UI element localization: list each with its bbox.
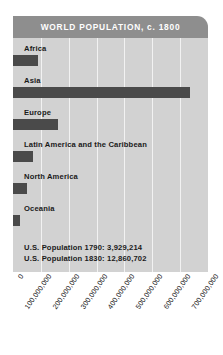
bar-category-label: Latin America and the Caribbean (24, 140, 147, 149)
plot-area: AfricaAsiaEuropeLatin America and the Ca… (13, 38, 208, 272)
bar (13, 119, 58, 130)
bar (13, 87, 190, 98)
x-tick-label: 400,000,000 (106, 272, 137, 311)
chart-annotations: U.S. Population 1790: 3,929,214U.S. Popu… (24, 242, 147, 264)
chart-title: WORLD POPULATION, c. 1800 (13, 22, 208, 32)
bar-category-label: North America (24, 172, 78, 181)
chart-header: WORLD POPULATION, c. 1800 (13, 16, 208, 38)
annotation-line: U.S. Population 1830: 12,860,702 (24, 253, 147, 264)
world-population-chart: WORLD POPULATION, c. 1800 AfricaAsiaEuro… (13, 16, 208, 272)
bar (13, 151, 33, 162)
bar-rows: AfricaAsiaEuropeLatin America and the Ca… (13, 38, 208, 272)
x-axis-tick-labels: 0100,000,000200,000,000300,000,000400,00… (13, 272, 208, 352)
x-tick-label: 200,000,000 (50, 272, 81, 311)
x-tick-label: 0 (16, 272, 26, 281)
chart-row: Asia (13, 76, 208, 108)
x-tick-label: 100,000,000 (22, 272, 53, 311)
chart-row: Latin America and the Caribbean (13, 140, 208, 172)
x-tick-label: 500,000,000 (134, 272, 165, 311)
bar (13, 215, 20, 226)
bar-category-label: Oceania (24, 204, 55, 213)
annotation-line: U.S. Population 1790: 3,929,214 (24, 242, 147, 253)
x-tick-label: 700,000,000 (189, 272, 220, 311)
bar (13, 183, 27, 194)
chart-row: Europe (13, 108, 208, 140)
bar (13, 55, 38, 66)
bar-category-label: Africa (24, 44, 46, 53)
x-tick-label: 600,000,000 (162, 272, 193, 311)
chart-row: Africa (13, 44, 208, 76)
chart-row: North America (13, 172, 208, 204)
bar-category-label: Asia (24, 76, 41, 85)
chart-row: Oceania (13, 204, 208, 236)
bar-category-label: Europe (24, 108, 51, 117)
